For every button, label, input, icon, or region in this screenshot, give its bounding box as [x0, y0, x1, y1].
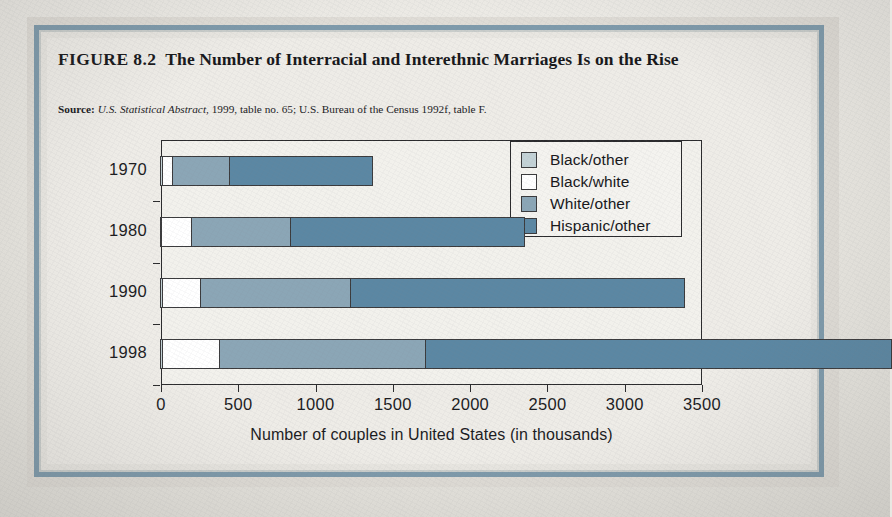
x-axis-tick-label: 2500 — [528, 395, 566, 414]
bar-row — [161, 339, 702, 369]
bar-segment — [219, 339, 427, 369]
figure-card: FIGURE 8.2The Number of Interracial and … — [47, 38, 811, 464]
x-axis-title: Number of couples in United States (in t… — [161, 426, 702, 444]
y-axis-tick — [153, 263, 160, 264]
bar-row — [161, 156, 702, 186]
legend-item: White/other — [521, 193, 681, 214]
bar-segment — [290, 217, 525, 247]
bar-segment — [200, 278, 351, 308]
x-axis-tick-label: 500 — [224, 395, 252, 414]
source-label: Source: — [58, 103, 95, 115]
x-axis-tick — [238, 385, 239, 392]
y-axis-tick — [153, 201, 160, 202]
chart-area: Number of couples in United States (in t… — [58, 130, 800, 450]
bar-segment — [425, 339, 892, 369]
x-axis-tick-label: 3000 — [606, 395, 644, 414]
bar-row — [161, 278, 702, 308]
bar-segment — [161, 217, 192, 247]
y-axis-tick-label: 1970 — [109, 160, 147, 179]
figure-source: Source: U.S. Statistical Abstract, 1999,… — [58, 102, 778, 117]
x-axis-tick — [161, 385, 162, 392]
x-axis-tick — [316, 385, 317, 392]
y-axis-tick-label: 1980 — [109, 221, 147, 240]
bar-segment — [162, 278, 201, 308]
x-axis-tick-label: 1500 — [374, 395, 412, 414]
bar-segment — [350, 278, 685, 308]
y-axis-tick — [153, 385, 160, 386]
bar-segment — [162, 339, 220, 369]
x-axis-tick — [625, 385, 626, 392]
bar-segment — [191, 217, 291, 247]
x-axis-tick — [470, 385, 471, 392]
y-axis-tick — [153, 324, 160, 325]
x-axis-tick-label: 3500 — [683, 395, 721, 414]
figure-title: FIGURE 8.2The Number of Interracial and … — [58, 48, 758, 71]
y-axis-tick-label: 1990 — [109, 282, 147, 301]
x-axis-tick-label: 0 — [156, 395, 165, 414]
x-axis-tick — [547, 385, 548, 392]
y-axis-tick-label: 1998 — [109, 343, 147, 362]
figure-title-text: The Number of Interracial and Interethni… — [165, 49, 678, 69]
bar-segment — [172, 156, 231, 186]
legend-swatch-icon — [521, 196, 537, 212]
bar-segment — [229, 156, 373, 186]
x-axis-tick-label: 1000 — [297, 395, 335, 414]
figure-number: FIGURE 8.2 — [58, 49, 156, 69]
x-axis-tick — [393, 385, 394, 392]
source-italic: U.S. Statistical Abstract, — [98, 103, 209, 115]
x-axis-tick — [702, 385, 703, 392]
bar-row — [161, 217, 702, 247]
legend-label: White/other — [550, 195, 630, 213]
source-rest: 1999, table no. 65; U.S. Bureau of the C… — [212, 103, 487, 115]
x-axis-tick-label: 2000 — [451, 395, 489, 414]
